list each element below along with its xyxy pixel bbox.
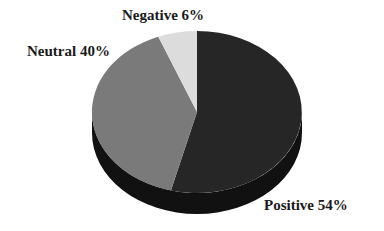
label-positive: Positive 54% — [264, 197, 348, 214]
label-negative: Negative 6% — [122, 7, 204, 24]
label-neutral: Neutral 40% — [27, 43, 110, 60]
